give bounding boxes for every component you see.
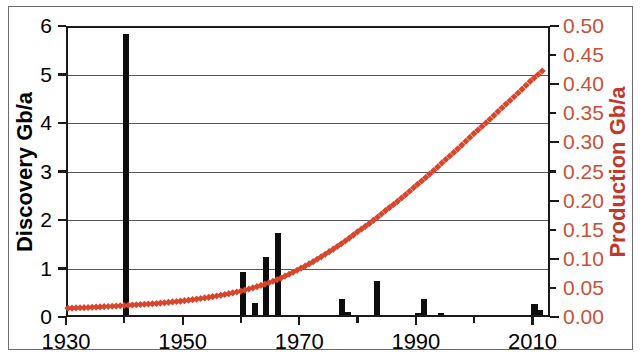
right-tick-mark: [550, 170, 556, 172]
left-tick-mark: [58, 25, 66, 27]
plot-area: [66, 26, 550, 317]
left-tick-label: 5: [26, 64, 52, 85]
x-tick-mark-major: [298, 317, 300, 325]
x-tick-label: 1990: [391, 331, 440, 353]
left-tick-label: 2: [26, 209, 52, 230]
x-tick-label: 1930: [42, 331, 91, 353]
right-tick-mark: [550, 200, 559, 202]
left-tick-mark: [58, 122, 66, 124]
right-tick-label: 0.30: [563, 131, 617, 152]
right-tick-label: 0.10: [563, 248, 617, 269]
left-tick-mark: [58, 219, 66, 221]
x-tick-mark-major: [65, 317, 67, 325]
x-tick-mark-minor: [473, 317, 475, 323]
left-tick-label: 1: [26, 258, 52, 279]
x-tick-mark-major: [182, 317, 184, 325]
right-tick-mark: [550, 112, 556, 114]
right-tick-mark: [550, 83, 559, 85]
right-tick-mark: [550, 229, 556, 231]
right-tick-mark: [550, 25, 559, 27]
right-tick-mark: [550, 287, 556, 289]
left-tick-mark: [58, 267, 66, 269]
right-tick-label: 0.05: [563, 277, 617, 298]
right-tick-label: 0.20: [563, 190, 617, 211]
x-tick-mark-minor: [240, 317, 242, 323]
right-tick-mark: [550, 54, 556, 56]
left-tick-label: 0: [26, 306, 52, 327]
right-tick-label: 0.00: [563, 306, 617, 327]
x-tick-mark-minor: [356, 317, 358, 323]
x-tick-label: 2010: [508, 331, 557, 353]
x-tick-label: 1970: [275, 331, 324, 353]
right-tick-label: 0.35: [563, 102, 617, 123]
right-tick-mark: [550, 316, 559, 318]
x-tick-mark-major: [531, 317, 533, 325]
right-tick-label: 0.15: [563, 219, 617, 240]
left-tick-label: 3: [26, 161, 52, 182]
production-line-layer: [68, 26, 548, 315]
left-tick-label: 6: [26, 15, 52, 36]
chart-figure: Discovery Gb/a Production Gb/a 01234560.…: [0, 0, 641, 360]
x-tick-mark-major: [415, 317, 417, 325]
left-tick-label: 4: [26, 112, 52, 133]
right-tick-label: 0.25: [563, 161, 617, 182]
right-tick-label: 0.40: [563, 73, 617, 94]
x-tick-mark-minor: [123, 317, 125, 323]
right-tick-label: 0.45: [563, 44, 617, 65]
left-tick-mark: [58, 170, 66, 172]
right-tick-mark: [550, 141, 559, 143]
right-tick-mark: [550, 258, 559, 260]
left-tick-mark: [58, 73, 66, 75]
right-tick-label: 0.50: [563, 15, 617, 36]
x-tick-label: 1950: [158, 331, 207, 353]
